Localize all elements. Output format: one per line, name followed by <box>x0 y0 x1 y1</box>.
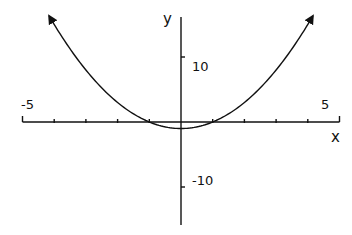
x-tick-label-neg5: -5 <box>21 98 34 111</box>
y-tick-label-neg10: -10 <box>192 174 213 187</box>
y-axis-label: y <box>163 12 172 27</box>
plot <box>0 0 352 235</box>
y-tick-label-10: 10 <box>192 60 209 73</box>
x-tick-label-5: 5 <box>321 98 329 111</box>
x-axis-label: x <box>331 130 340 145</box>
